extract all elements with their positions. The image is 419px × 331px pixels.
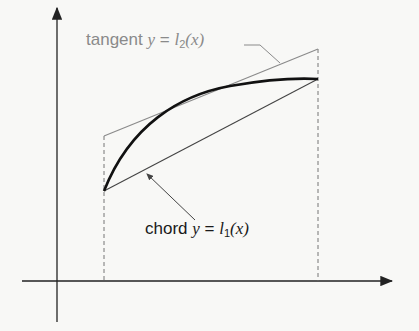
tangent-eq: = [155,30,174,49]
diagram-canvas [0,0,419,331]
tangent-arg: (x) [185,30,204,49]
tangent-label: tangent y = l2(x) [86,30,204,50]
chord-label: chord y = l1(x) [145,219,249,239]
chord-arg: (x) [230,219,249,238]
chord-var: y [192,219,200,238]
tangent-line [104,49,318,136]
tangent-var: y [147,30,155,49]
tangent-pointer [244,45,280,63]
chord-pointer [147,174,195,220]
chord-eq: = [200,219,219,238]
chord-word: chord [145,219,188,238]
chord-line [104,79,318,191]
tangent-word: tangent [86,30,143,49]
